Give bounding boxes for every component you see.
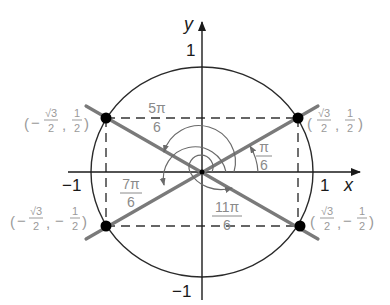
svg-text:(: (	[307, 115, 312, 132]
svg-text:√3: √3	[45, 107, 57, 119]
point-dot-q2	[101, 113, 112, 124]
svg-text:2: 2	[48, 122, 54, 134]
svg-text:6: 6	[127, 194, 135, 210]
svg-text:√3: √3	[318, 107, 330, 119]
angle-label-pi-over-6: π 6	[256, 139, 272, 173]
arc-5pi-over-6	[164, 126, 235, 172]
svg-text:2: 2	[321, 122, 327, 134]
svg-text:2: 2	[347, 122, 353, 134]
point-dot-q1	[293, 113, 304, 124]
svg-text:,: ,	[337, 214, 341, 231]
svg-text:): )	[84, 115, 89, 132]
svg-text:6: 6	[260, 157, 268, 173]
svg-text:√3: √3	[30, 205, 42, 217]
y-axis-label: y	[182, 14, 194, 34]
arc-pi-over-6	[250, 146, 258, 172]
coord-label-q3: ( − √3 2 , − 1 2 )	[10, 205, 87, 232]
svg-text:6: 6	[223, 217, 231, 233]
x-neg-tick: −1	[62, 176, 81, 195]
svg-text:): )	[358, 115, 363, 132]
x-pos-tick: 1	[320, 176, 329, 195]
origin-dot	[200, 170, 205, 175]
angle-label-7pi-over-6: 7π 6	[120, 176, 142, 210]
svg-text:2: 2	[33, 220, 39, 232]
x-axis-label: x	[343, 175, 354, 195]
angle-label-11pi-over-6: 11π 6	[212, 199, 242, 233]
svg-text:−: −	[55, 212, 64, 229]
svg-text:11π: 11π	[215, 199, 240, 215]
svg-text:√3: √3	[321, 205, 333, 217]
svg-text:(: (	[10, 213, 15, 230]
svg-text:): )	[369, 213, 374, 230]
svg-text:2: 2	[359, 220, 365, 232]
svg-text:(: (	[310, 213, 315, 230]
svg-text:−: −	[17, 212, 26, 229]
svg-text:1: 1	[347, 107, 353, 119]
svg-text:(: (	[24, 115, 29, 132]
y-neg-tick: −1	[172, 282, 191, 301]
svg-text:1: 1	[74, 107, 80, 119]
svg-text:,: ,	[46, 214, 50, 231]
svg-text:1: 1	[72, 205, 78, 217]
svg-text:5π: 5π	[148, 100, 166, 116]
svg-text:−: −	[343, 212, 352, 229]
coord-label-q4: ( √3 2 , − 1 2 )	[310, 205, 374, 232]
unit-circle-diagram: y x 1 −1 1 −1 π 6 5π 6 7π 6 11π 6 ( √3 2…	[0, 0, 390, 305]
svg-text:6: 6	[153, 119, 161, 135]
svg-text:7π: 7π	[122, 176, 140, 192]
svg-text:2: 2	[74, 122, 80, 134]
coord-label-q1: ( √3 2 , 1 2 )	[307, 107, 363, 134]
svg-text:π: π	[259, 139, 269, 155]
point-dot-q3	[101, 221, 112, 232]
coord-label-q2: ( − √3 2 , 1 2 )	[24, 107, 89, 134]
point-dot-q4	[295, 221, 306, 232]
svg-text:2: 2	[324, 220, 330, 232]
svg-text:): )	[82, 213, 87, 230]
svg-text:1: 1	[359, 205, 365, 217]
svg-text:,: ,	[335, 116, 339, 133]
svg-text:,: ,	[62, 116, 66, 133]
svg-text:−: −	[31, 114, 40, 131]
svg-text:2: 2	[72, 220, 78, 232]
y-pos-tick: 1	[186, 41, 195, 60]
